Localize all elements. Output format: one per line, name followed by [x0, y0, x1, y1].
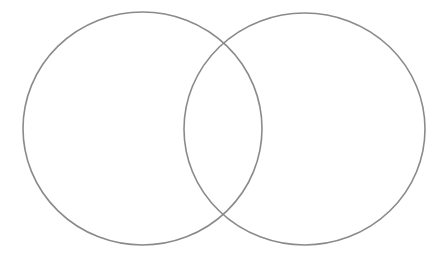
- venn-circle-left: [23, 12, 262, 245]
- venn-diagram: [0, 0, 444, 259]
- venn-circle-right: [184, 13, 425, 245]
